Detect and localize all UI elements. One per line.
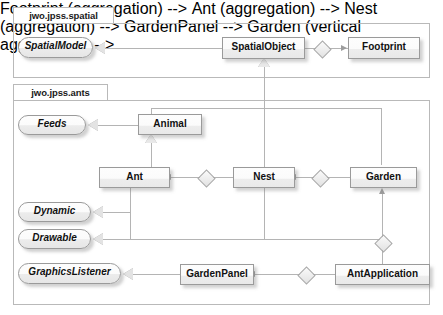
interface-graphics-listener[interactable]: GraphicsListener [18,263,121,284]
interface-spatial-model-label: SpatialModel [25,40,87,51]
class-ant[interactable]: Ant [99,167,170,188]
class-ant-application-label: AntApplication [347,268,418,279]
connector-nest-spatialobject [264,63,265,173]
interface-drawable-label: Drawable [32,232,76,243]
class-ant-label: Ant [126,171,143,182]
class-garden[interactable]: Garden [350,167,417,188]
realization-arrow-spatial-model-icon [95,42,105,54]
generalization-arrow-animal-icon [145,134,157,143]
class-animal[interactable]: Animal [138,114,202,135]
class-garden-panel[interactable]: GardenPanel [180,264,254,285]
connector-ant-dynamic [102,212,130,213]
interface-spatial-model[interactable]: SpatialModel [18,37,93,58]
class-garden-label: Garden [366,171,401,182]
generalization-arrow-spatial-object-icon [258,58,270,67]
connector-garden-vertical-top [381,108,382,165]
interface-graphics-listener-label: GraphicsListener [28,266,110,277]
package-label-ants: jwo.jpss.ants [31,87,89,98]
interface-dynamic-label: Dynamic [34,205,76,216]
interface-feeds-label: Feeds [38,118,67,129]
class-garden-panel-label: GardenPanel [186,268,248,279]
class-ant-application[interactable]: AntApplication [335,264,430,285]
uml-class-diagram: jwo.jpss.spatial SpatialModel SpatialObj… [0,0,443,315]
package-tab-spatial: jwo.jpss.spatial [13,7,114,24]
connector-spatialobject-spatialmodel [105,48,222,49]
interface-dynamic[interactable]: Dynamic [18,202,91,222]
class-nest[interactable]: Nest [233,167,295,188]
interface-drawable[interactable]: Drawable [18,229,91,249]
connector-ant-drop [130,188,131,239]
class-footprint[interactable]: Footprint [348,37,420,59]
class-spatial-object[interactable]: SpatialObject [222,37,305,59]
package-tab-ants: jwo.jpss.ants [13,84,108,101]
class-animal-label: Animal [153,118,186,129]
realization-arrow-feeds-icon [88,119,98,131]
association-arrow-footprint-icon [341,45,347,51]
connector-animal-garden-horizontal [151,108,381,109]
class-footprint-label: Footprint [362,41,406,52]
class-spatial-object-label: SpatialObject [232,41,296,52]
interface-feeds[interactable]: Feeds [18,115,86,135]
association-arrow-garden-icon [379,188,385,194]
class-nest-label: Nest [253,171,275,182]
connector-gardenpanel-graphicslistener [132,274,180,275]
connector-animal-feeds [97,125,138,126]
connector-antapplication-gardenpanel [254,274,335,275]
realization-arrow-graphics-listener-icon [123,268,133,280]
connector-ant-animal [151,140,152,167]
connector-nest-drop [264,188,265,239]
realization-arrow-dynamic-icon [93,206,103,218]
realization-arrow-drawable-icon [93,233,103,245]
connector-drawable-bus [102,239,382,240]
package-label-spatial: jwo.jpss.spatial [29,10,98,21]
connector-antapplication-garden [382,194,383,264]
